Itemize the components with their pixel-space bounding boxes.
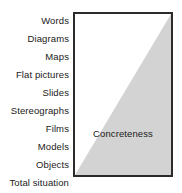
concreteness-box: Concreteness [73, 12, 173, 177]
concreteness-triangle-shape [75, 14, 171, 175]
concreteness-region-label: Concreteness [75, 128, 171, 139]
tier-label-words: Words [0, 12, 69, 30]
tier-label-column: Words Diagrams Maps Flat pictures Slides… [0, 12, 69, 192]
tier-label-maps: Maps [0, 48, 69, 66]
concreteness-triangle [75, 14, 171, 175]
tier-label-slides: Slides [0, 84, 69, 102]
tier-label-total-situation: Total situation [0, 174, 69, 192]
tier-label-objects: Objects [0, 156, 69, 174]
tier-label-flat-pictures: Flat pictures [0, 66, 69, 84]
concreteness-cone-figure: Words Diagrams Maps Flat pictures Slides… [0, 0, 182, 193]
tier-label-diagrams: Diagrams [0, 30, 69, 48]
tier-label-stereographs: Stereographs [0, 102, 69, 120]
tier-label-models: Models [0, 138, 69, 156]
tier-label-films: Films [0, 120, 69, 138]
